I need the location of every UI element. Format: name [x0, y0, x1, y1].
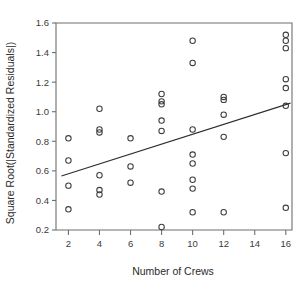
data-point — [283, 150, 288, 155]
y-tick-label: 1.6 — [36, 17, 49, 28]
data-point — [159, 91, 164, 96]
x-tick-label: 12 — [218, 238, 229, 249]
data-point — [190, 38, 195, 43]
data-point — [221, 112, 226, 117]
plot-frame — [56, 23, 292, 230]
x-tick-label: 6 — [128, 238, 133, 249]
data-point — [66, 207, 71, 212]
y-tick-label: 0.2 — [36, 224, 49, 235]
x-tick-label: 14 — [249, 238, 260, 249]
data-point — [66, 158, 71, 163]
data-point — [283, 85, 288, 90]
data-point — [283, 32, 288, 37]
data-point — [190, 186, 195, 191]
data-point — [66, 183, 71, 188]
data-point — [283, 38, 288, 43]
y-axis-ticks: 0.20.40.60.81.01.21.41.6 — [36, 17, 56, 235]
y-tick-label: 1.0 — [36, 106, 49, 117]
data-point — [66, 136, 71, 141]
data-point — [159, 128, 164, 133]
y-tick-label: 0.6 — [36, 165, 49, 176]
data-point — [159, 189, 164, 194]
x-tick-label: 10 — [187, 238, 198, 249]
data-point — [128, 180, 133, 185]
data-point — [283, 76, 288, 81]
y-axis-label: Square Root(|Standardized Residuals|) — [4, 42, 16, 224]
plot-canvas: 0.20.40.60.81.01.21.41.6 246810121416 Nu… — [0, 0, 307, 284]
y-tick-label: 1.2 — [36, 77, 49, 88]
y-tick-label: 1.4 — [36, 47, 49, 58]
x-tick-label: 2 — [66, 238, 71, 249]
data-point — [190, 152, 195, 157]
data-point — [97, 106, 102, 111]
regression-fit-line — [61, 103, 290, 176]
data-point — [97, 173, 102, 178]
data-point — [159, 224, 164, 229]
data-point — [221, 134, 226, 139]
scatter-plot-figure: 0.20.40.60.81.01.21.41.6 246810121416 Nu… — [0, 0, 307, 284]
data-point — [190, 177, 195, 182]
data-point — [283, 45, 288, 50]
data-point — [128, 136, 133, 141]
axis-frame — [56, 23, 292, 230]
fit-line — [61, 103, 290, 176]
data-point — [190, 127, 195, 132]
data-point — [159, 118, 164, 123]
data-points — [66, 32, 289, 230]
x-tick-label: 8 — [159, 238, 164, 249]
x-tick-label: 4 — [97, 238, 102, 249]
x-axis-ticks: 246810121416 — [66, 230, 291, 249]
x-axis-label: Number of Crews — [132, 265, 214, 277]
data-point — [221, 210, 226, 215]
data-point — [128, 164, 133, 169]
data-point — [190, 210, 195, 215]
data-point — [190, 161, 195, 166]
data-point — [190, 60, 195, 65]
x-tick-label: 16 — [281, 238, 292, 249]
y-tick-label: 0.4 — [36, 195, 49, 206]
data-point — [283, 205, 288, 210]
y-tick-label: 0.8 — [36, 136, 49, 147]
